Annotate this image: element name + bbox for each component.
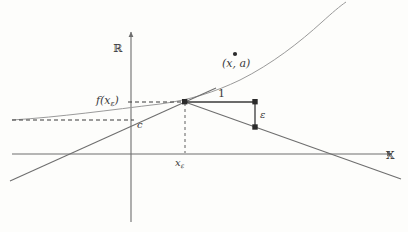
point-x-a-label: (x, a) — [222, 58, 250, 69]
epsilon-rise-label: ε — [260, 110, 265, 120]
x-epsilon-label: xε — [175, 158, 184, 170]
run-endpoint-marker — [252, 99, 257, 104]
y-axis-label: ℝ — [113, 43, 122, 54]
point-x-a-marker — [233, 52, 237, 56]
function-value-label: f(xε) — [96, 95, 119, 108]
unit-run-label: 1 — [218, 88, 225, 99]
figure-canvas — [0, 0, 408, 232]
x-axis-label: 𝕏 — [386, 150, 395, 161]
constant-c-label: c — [137, 120, 143, 130]
descending-line — [185, 102, 401, 179]
kink-point-marker — [182, 99, 187, 104]
rise-endpoint-marker — [252, 124, 257, 129]
math-figure: f(xε) c xε 1 ε (x, a) ℝ 𝕏 — [0, 0, 408, 232]
